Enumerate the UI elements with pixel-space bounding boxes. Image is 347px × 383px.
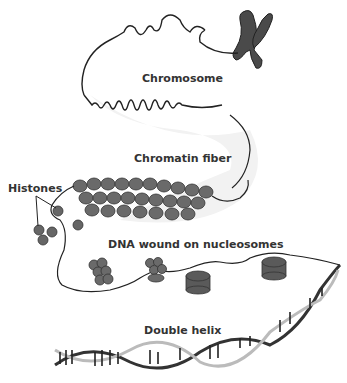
nucleosomes bbox=[89, 257, 286, 294]
label-double-helix: Double helix bbox=[144, 324, 221, 337]
chromosome-icon bbox=[233, 11, 273, 69]
histones bbox=[34, 206, 83, 245]
label-chromatin-fiber: Chromatin fiber bbox=[134, 152, 231, 165]
label-chromosome: Chromosome bbox=[142, 72, 223, 85]
dna-packaging-diagram: Chromosome Chromatin fiber Histones DNA … bbox=[0, 0, 347, 383]
chromosome-coils bbox=[84, 95, 222, 110]
label-histones: Histones bbox=[8, 182, 62, 195]
label-nucleosomes: DNA wound on nucleosomes bbox=[108, 238, 284, 251]
